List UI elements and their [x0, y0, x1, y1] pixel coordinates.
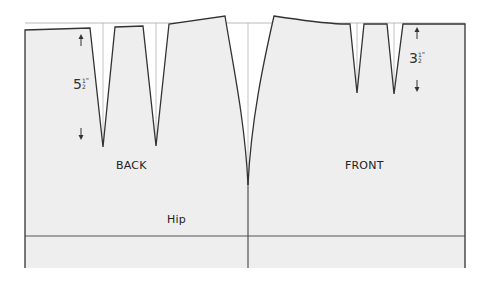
back-measure-unit: " — [86, 77, 89, 85]
front-label: FRONT — [345, 159, 384, 172]
hip-label: Hip — [167, 213, 186, 226]
front-dart-measurement: 312" — [409, 50, 425, 66]
back-label: BACK — [116, 159, 147, 172]
back-dart-measurement: 512" — [73, 76, 89, 92]
front-piece — [248, 16, 465, 268]
front-measure-whole: 3 — [409, 50, 418, 66]
back-measure-whole: 5 — [73, 76, 82, 92]
back-piece — [25, 16, 248, 268]
front-measure-unit: " — [422, 51, 425, 59]
skirt-pattern-diagram — [0, 0, 486, 285]
